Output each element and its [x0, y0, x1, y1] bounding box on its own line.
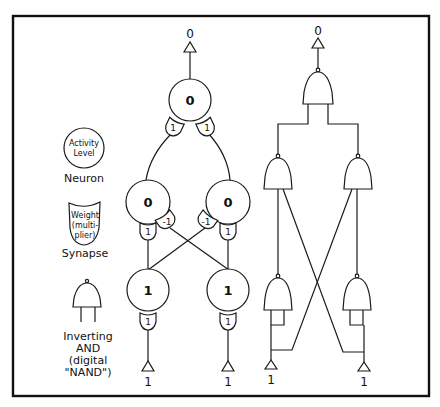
neural-vs-nand-diagram: Activity Level Neuron Weight (multi- pli…	[0, 0, 440, 407]
legend-neuron-inner-2: Level	[73, 149, 94, 158]
legend-neuron-icon	[64, 128, 104, 168]
nand-output-label: 0	[314, 24, 322, 38]
legend-nand-gate-icon	[73, 279, 101, 322]
nn-bottom-right-synapse-weight: 1	[225, 317, 231, 327]
nand-input-left-label: 1	[267, 373, 275, 387]
nn-input-left-label: 1	[144, 375, 152, 389]
legend-neuron-inner-1: Activity	[69, 139, 99, 148]
legend-synapse-inner-1: Weight	[71, 211, 99, 220]
neural-network: 0 0 1 1 0 1 -1 0	[126, 27, 250, 389]
nn-bottom-right-neuron-value: 1	[223, 283, 232, 298]
nand-output-arrow-icon	[312, 38, 324, 48]
nn-bottom-left-neuron-value: 1	[143, 283, 152, 298]
nand-bottom-right-gate	[343, 274, 371, 325]
nn-bottom-left-synapse-weight: 1	[145, 317, 151, 327]
legend: Activity Level Neuron Weight (multi- pli…	[62, 128, 113, 379]
legend-synapse-inner-2: (multi-	[72, 221, 99, 230]
nn-middle-left-cross-weight: -1	[163, 217, 172, 227]
nand-input-right-arrow-icon	[358, 362, 370, 371]
nn-middle-left-neuron-value: 0	[143, 195, 152, 210]
nn-middle-right-neuron-value: 0	[223, 195, 232, 210]
nn-output-arrow-icon	[184, 42, 196, 52]
legend-gate-label-4: "NAND")	[65, 366, 112, 379]
nand-middle-right-gate	[344, 154, 372, 189]
legend-synapse-label: Synapse	[62, 247, 109, 260]
nn-middle-right-synapse-weight: 1	[225, 227, 231, 237]
nn-middle-left-synapse-weight: 1	[145, 227, 151, 237]
nn-input-right-label: 1	[224, 375, 232, 389]
nand-top-gate	[303, 68, 333, 104]
nn-input-left-arrow-icon	[142, 361, 154, 371]
legend-neuron-label: Neuron	[64, 172, 104, 185]
legend-synapse-inner-3: plier)	[75, 231, 96, 240]
nn-input-right-arrow-icon	[222, 361, 234, 371]
nand-bottom-left-gate	[264, 274, 292, 325]
nn-output-label: 0	[186, 27, 194, 41]
nn-top-synapse-left-weight: 1	[170, 123, 176, 133]
nn-top-synapse-right-weight: 1	[204, 123, 210, 133]
nand-input-left-arrow-icon	[265, 360, 277, 369]
nn-middle-right-cross-weight: -1	[202, 217, 211, 227]
nand-input-right-label: 1	[360, 375, 368, 389]
nand-network: 0 1	[264, 24, 372, 389]
nn-top-neuron-value: 0	[185, 93, 194, 108]
nand-middle-left-gate	[264, 154, 292, 189]
